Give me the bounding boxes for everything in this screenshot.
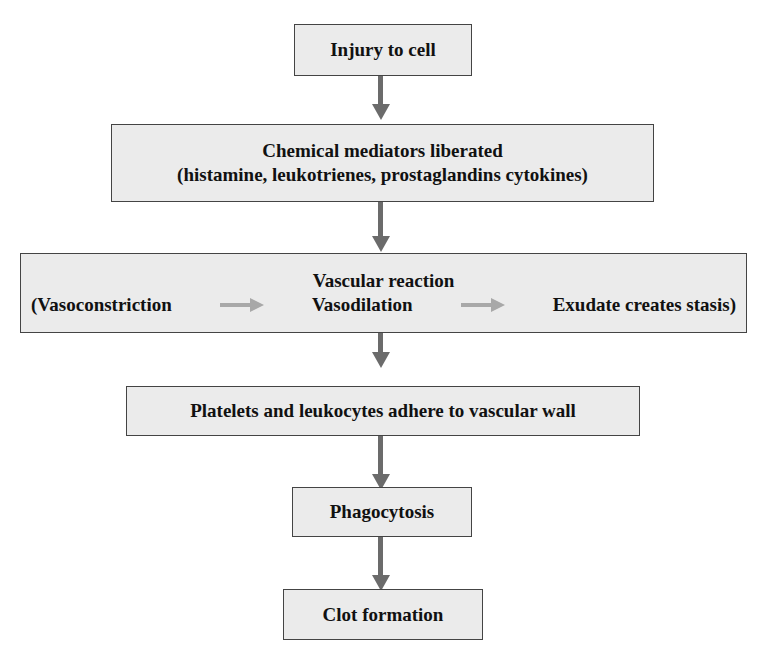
arrow-2 (378, 202, 383, 238)
step-label: Phagocytosis (330, 500, 435, 524)
step-injury-to-cell: Injury to cell (294, 24, 472, 76)
vasodilation-label: Vasodilation (312, 293, 413, 317)
step-label: Chemical mediators liberated (262, 139, 503, 163)
step-label: Injury to cell (330, 38, 436, 62)
step-clot-formation: Clot formation (283, 589, 483, 640)
arrow-1-head (372, 104, 390, 120)
vasoconstriction-label: (Vasoconstriction (31, 293, 172, 317)
arrow-1 (378, 76, 383, 106)
step-phagocytosis: Phagocytosis (292, 487, 472, 537)
step-label: Platelets and leukocytes adhere to vascu… (190, 399, 576, 423)
step-platelets-adhere: Platelets and leukocytes adhere to vascu… (126, 386, 640, 436)
step-vascular-reaction: Vascular reaction (Vasoconstriction Vaso… (20, 253, 747, 333)
step-sublabel: (histamine, leukotrienes, prostaglandins… (177, 163, 588, 187)
step-chemical-mediators: Chemical mediators liberated (histamine,… (111, 124, 654, 202)
arrow-5 (378, 537, 383, 577)
arrow-4 (378, 436, 383, 476)
arrow-3-head (372, 352, 390, 368)
step-label: Clot formation (323, 603, 444, 627)
right-arrow-icon (461, 298, 505, 312)
exudate-label: Exudate creates stasis) (553, 293, 736, 317)
right-arrow-icon (220, 298, 264, 312)
arrow-2-head (372, 236, 390, 252)
step-label: Vascular reaction (313, 269, 455, 293)
